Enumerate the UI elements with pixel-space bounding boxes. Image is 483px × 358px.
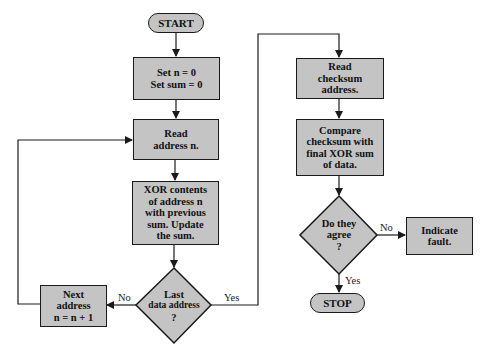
edge-label-last-no: No <box>118 292 131 303</box>
xor-line-2: of address n <box>144 196 207 208</box>
checksum-line-1: Read <box>318 61 362 73</box>
compare-line-2: checksum with <box>306 136 374 148</box>
edge-label-agree-yes: Yes <box>345 275 360 286</box>
start-terminal: START <box>148 13 204 33</box>
compare-line-3: final XOR sum <box>306 148 374 160</box>
next-line-2: address <box>54 300 93 312</box>
edge-label-last-yes: Yes <box>224 292 239 303</box>
decision-agree: Do they agree ? <box>309 215 369 255</box>
init-line-2: Set sum = 0 <box>151 79 203 91</box>
agree-line-2: agree <box>322 229 357 241</box>
agree-line-3: ? <box>322 241 357 253</box>
next-line-1: Next <box>54 289 93 301</box>
flowchart-canvas: START Set n = 0 Set sum = 0 Read address… <box>0 0 483 358</box>
last-line-2: data address <box>148 300 199 312</box>
xor-line-1: XOR contents <box>144 184 207 196</box>
xor-line-4: sum. Update <box>144 219 207 231</box>
read-address-line-2: address n. <box>153 140 198 152</box>
start-label: START <box>158 17 193 29</box>
decision-last-address: Last data address ? <box>140 286 208 326</box>
fault-line-1: Indicate <box>421 225 458 237</box>
next-line-3: n = n + 1 <box>54 312 93 324</box>
init-process-box: Set n = 0 Set sum = 0 <box>133 57 220 100</box>
fault-line-2: fault. <box>421 236 458 248</box>
xor-line-5: the sum. <box>144 230 207 242</box>
read-address-box: Read address n. <box>133 119 219 160</box>
indicate-fault-box: Indicate fault. <box>406 217 473 255</box>
init-line-1: Set n = 0 <box>151 67 203 79</box>
xor-line-3: with previous <box>144 207 207 219</box>
last-line-3: ? <box>148 312 199 324</box>
next-address-box: Next address n = n + 1 <box>40 285 107 327</box>
compare-line-4: of data. <box>306 159 374 171</box>
read-checksum-box: Read checksum address. <box>296 58 384 99</box>
last-line-1: Last <box>148 289 199 301</box>
checksum-line-3: address. <box>318 84 362 96</box>
edge-label-agree-no: No <box>380 222 393 233</box>
stop-terminal: STOP <box>310 293 365 313</box>
stop-label: STOP <box>323 297 352 309</box>
checksum-line-2: checksum <box>318 73 362 85</box>
agree-line-1: Do they <box>322 218 357 230</box>
compare-line-1: Compare <box>306 125 374 137</box>
xor-process-box: XOR contents of address n with previous … <box>132 181 219 245</box>
compare-box: Compare checksum with final XOR sum of d… <box>296 119 384 176</box>
read-address-line-1: Read <box>153 128 198 140</box>
